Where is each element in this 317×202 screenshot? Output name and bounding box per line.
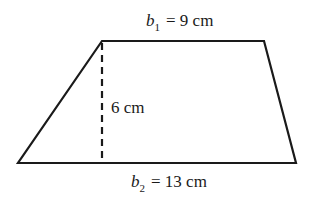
top-base-label: b1= 9 cm xyxy=(146,11,213,33)
trapezoid-diagram: b1= 9 cm 6 cm b2= 13 cm xyxy=(0,0,317,202)
height-label: 6 cm xyxy=(111,98,145,117)
bottom-base-label: b2= 13 cm xyxy=(131,172,207,194)
trapezoid-shape xyxy=(18,41,296,163)
